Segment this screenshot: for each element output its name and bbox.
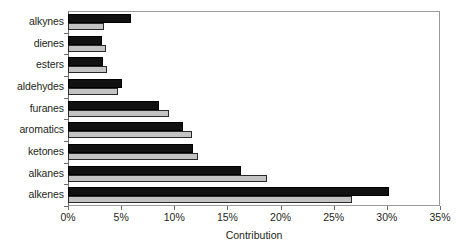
y-axis-tick-label: alkenes [0, 189, 64, 200]
bar-series-gray [68, 153, 198, 160]
x-axis-tick-label: 30% [376, 211, 397, 223]
y-axis-tick-label: alkynes [0, 16, 64, 27]
bar-series-gray [68, 175, 267, 182]
bar-group [68, 144, 440, 160]
bar-group [68, 36, 440, 52]
bar-group [68, 166, 440, 182]
y-axis-tick-label: aldehydes [0, 81, 64, 92]
x-axis-tick-mark [440, 206, 441, 210]
y-axis-tick-label: furanes [0, 103, 64, 114]
x-axis-tick-labels: 0%5%10%15%20%25%30%35% [0, 211, 458, 225]
bar-series-black [68, 14, 131, 23]
x-axis-tick-mark [68, 206, 69, 210]
x-axis-tick-mark [387, 206, 388, 210]
y-axis-tick-label: ketones [0, 146, 64, 157]
bar-group [68, 101, 440, 117]
bar-group [68, 79, 440, 95]
y-axis-tick-label: alkanes [0, 168, 64, 179]
bar-series-black [68, 144, 193, 153]
x-axis-tick-mark [174, 206, 175, 210]
x-axis-tick-label: 15% [217, 211, 238, 223]
bar-series-black [68, 101, 159, 110]
bar-series-gray [68, 88, 118, 95]
bar-series-black [68, 79, 122, 88]
y-axis-tick-label: esters [0, 59, 64, 70]
x-axis-tick-label: 35% [429, 211, 450, 223]
bar-series-black [68, 166, 241, 175]
x-axis-tick-label: 0% [60, 211, 75, 223]
bar-series-gray [68, 66, 107, 73]
x-axis-tick-label: 20% [270, 211, 291, 223]
bar-group [68, 187, 440, 203]
bar-series-gray [68, 45, 106, 52]
x-axis-tick-label: 5% [114, 211, 129, 223]
x-axis-tick-mark [334, 206, 335, 210]
bar-series-gray [68, 131, 192, 138]
bars-layer [68, 11, 440, 206]
bar-series-black [68, 122, 183, 131]
bar-series-black [68, 36, 102, 45]
x-axis-tick-label: 10% [164, 211, 185, 223]
x-axis-tick-mark [227, 206, 228, 210]
x-axis-tick-label: 25% [323, 211, 344, 223]
bar-series-gray [68, 196, 352, 203]
bar-group [68, 122, 440, 138]
x-axis-tick-mark [121, 206, 122, 210]
bar-group [68, 57, 440, 73]
bar-group [68, 14, 440, 30]
bar-series-gray [68, 110, 169, 117]
bar-series-gray [68, 23, 104, 30]
x-axis-tick-mark [281, 206, 282, 210]
bar-chart: alkynesdienesestersaldehydesfuranesaroma… [0, 0, 458, 248]
bar-series-black [68, 57, 103, 66]
y-axis-tick-label: dienes [0, 38, 64, 49]
y-axis-tick-label: aromatics [0, 124, 64, 135]
x-axis-title: Contribution [68, 229, 440, 241]
y-axis: alkynesdienesestersaldehydesfuranesaroma… [0, 11, 64, 206]
bar-series-black [68, 187, 389, 196]
